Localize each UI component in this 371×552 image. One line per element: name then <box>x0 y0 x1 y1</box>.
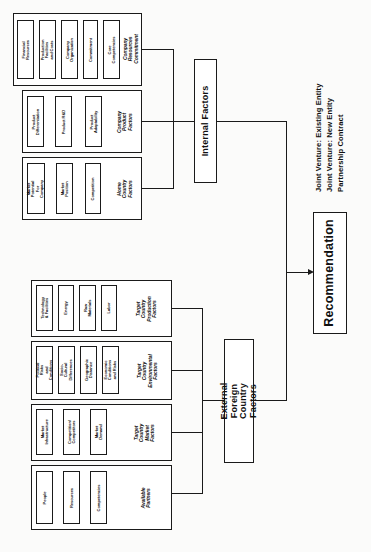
leaf-label: Market Demand <box>94 424 103 440</box>
leaf-label: Core Competencies <box>107 36 116 63</box>
leaf-labor: Labor <box>101 285 117 331</box>
category-target-country-production-factors: Target Country Production Factors <box>134 281 160 336</box>
option-partnership-contract: Partnership Contract <box>335 84 346 192</box>
category-home-country-factors: Home Country Factors <box>112 159 138 218</box>
leaf-label: Labor <box>107 303 111 314</box>
recommendation-options: Joint Venture: Existing Entity Joint Ven… <box>313 84 346 192</box>
connector-external-bus <box>202 308 203 494</box>
leaf-label: Competencies <box>96 484 100 511</box>
leaf-label: Commitment <box>88 37 92 61</box>
category-company-resources-commitment: Company Resources Commitment <box>122 16 140 82</box>
connector-internal-to-merge <box>217 121 286 122</box>
leaf-market-position: Market Position <box>56 163 73 214</box>
leaf-political-risks-and-conditions: Political Risks and Conditions <box>36 346 53 394</box>
leaf-raw-materials: Raw Materials <box>79 285 96 331</box>
leaf-label: Competition <box>91 177 95 200</box>
leaf-label: Energy <box>64 301 68 314</box>
connector-external-g2 <box>172 370 202 371</box>
connector-internal-g2 <box>142 121 194 122</box>
leaf-product-rd: Product R&D <box>55 96 72 147</box>
connector-internal-g1 <box>142 49 173 50</box>
leaf-label: Competition/ Competitors <box>67 420 76 444</box>
leaf-label: Product Adaptability <box>89 110 98 132</box>
category-label: Target Country Production Factors <box>136 296 158 321</box>
leaf-label: People <box>42 491 46 504</box>
leaf-label: Political Risks and Conditions <box>36 360 54 380</box>
leaf-market-infrastructure: Market Infrastructure <box>36 409 53 455</box>
leaf-geographic-distance: Geographic Distance <box>80 346 97 394</box>
connector-external-g4 <box>172 493 202 494</box>
category-label: Target Country Environmental Factors <box>137 354 159 387</box>
connector-internal-bus <box>173 49 174 189</box>
category-available-partners: Available Partners <box>133 467 159 528</box>
leaf-label: Financial Resources <box>21 39 30 59</box>
leaf-core-competencies: Core Competencies <box>103 20 120 79</box>
connector-external-g3 <box>172 432 202 433</box>
leaf-label: Company Organization <box>65 38 74 62</box>
category-label: Company Product Factors <box>117 110 133 132</box>
option-joint-venture-existing-entity: Joint Venture: Existing Entity <box>313 84 324 192</box>
leaf-label: Product Differentiation <box>31 108 40 134</box>
category-target-country-environmental-factors: Target Country Environmental Factors <box>133 342 163 399</box>
leaf-market-demand: Market Demand <box>90 409 107 455</box>
leaf-label: Market Infrastructure <box>40 419 49 444</box>
connector-external-g1 <box>172 308 202 309</box>
node-label: Internal Factors <box>201 86 211 157</box>
leaf-economic-conditions-and-risks: Economic Conditions and Risks <box>102 346 119 394</box>
leaf-label: Product R&D <box>61 109 65 133</box>
leaf-label: Geographic Distance <box>84 359 93 381</box>
leaf-label: Socio-Cultural Differences <box>60 359 73 380</box>
leaf-socio-cultural-differences: Socio-Cultural Differences <box>58 346 75 394</box>
leaf-product-differentiation: Product Differentiation <box>27 96 44 147</box>
category-label: Home Country Factors <box>117 179 133 197</box>
leaf-competencies: Competencies <box>90 471 107 524</box>
leaf-label: Technology & Facilities <box>40 297 49 319</box>
connector-merge-bus <box>286 121 287 401</box>
leaf-company-organization: Company Organization <box>61 20 78 79</box>
connector-external-to-merge <box>254 400 286 401</box>
leaf-resources: Resources <box>63 471 80 524</box>
node-label: Recommendation <box>323 219 337 327</box>
category-company-product-factors: Company Product Factors <box>112 92 138 151</box>
category-label: Target Country Market Factors <box>134 423 156 441</box>
leaf-energy: Energy <box>58 285 74 331</box>
leaf-financial-resources: Financial Resources <box>17 20 34 79</box>
leaf-market-potential-for-company: Market Potential For Company <box>27 163 45 214</box>
leaf-label: Raw Materials <box>83 300 92 317</box>
leaf-label: Resources <box>69 487 73 507</box>
leaf-label: Economic Conditions and Risks <box>104 360 117 380</box>
node-internal-factors: Internal Factors <box>194 59 217 183</box>
node-recommendation: Recommendation <box>313 212 347 334</box>
connector-merge-to-recommendation <box>286 272 310 273</box>
leaf-competition-competitors: Competition/ Competitors <box>63 409 80 455</box>
leaf-people: People <box>36 471 53 524</box>
node-label: External Foreign Country Factors <box>220 382 259 419</box>
leaf-commitment: Commitment <box>83 20 98 79</box>
leaf-competition-home: Competition <box>85 163 101 214</box>
option-joint-venture-new-entity: Joint Venture: New Entity <box>324 84 335 192</box>
leaf-product-adaptability: Product Adaptability <box>85 96 102 147</box>
category-label: Available Partners <box>141 487 152 508</box>
leaf-production-facilities-and-costs: Production Facilities and Costs <box>39 20 56 79</box>
diagram-canvas: Financial Resources Production Facilitie… <box>0 0 371 552</box>
node-external-foreign-country-factors: External Foreign Country Factors <box>224 339 254 463</box>
connector-internal-g3 <box>142 188 173 189</box>
category-target-country-market-factors: Target Country Market Factors <box>130 405 160 460</box>
leaf-technology-and-facilities: Technology & Facilities <box>36 285 53 331</box>
leaf-label: Production Facilities and Costs <box>41 39 54 60</box>
leaf-label: Market Position <box>60 181 69 196</box>
category-label: Company Resources Commitment <box>123 34 139 64</box>
leaf-label: Market Potential For Company <box>27 180 45 198</box>
